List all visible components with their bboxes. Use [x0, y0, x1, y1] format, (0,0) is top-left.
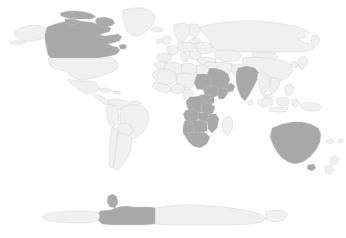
world-map-svg[interactable] — [0, 0, 346, 238]
region-indonesia-java[interactable] — [269, 107, 288, 112]
region-germany-poland[interactable] — [178, 42, 195, 52]
world-map-container — [0, 0, 346, 238]
